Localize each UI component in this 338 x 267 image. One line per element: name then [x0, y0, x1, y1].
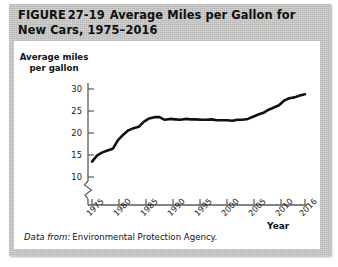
- x-axis-title: Year: [267, 221, 289, 231]
- figure-number: 27-19: [68, 8, 105, 22]
- source-note: Data from:Environmental Protection Agenc…: [24, 232, 217, 242]
- figure-container: FIGURE27-19Average Miles per Gallon for …: [0, 0, 338, 267]
- data-series-line: [92, 94, 305, 161]
- y-tick-label-20: 20: [60, 128, 82, 138]
- source-note-text: Environmental Protection Agency.: [72, 232, 217, 242]
- chart-plot-area: Average miles per gallon: [14, 41, 320, 249]
- y-axis-break-icon: [85, 181, 92, 199]
- figure-label: FIGURE: [18, 8, 66, 22]
- source-note-lead: Data from:: [24, 232, 70, 242]
- figure-title: FIGURE27-19Average Miles per Gallon for …: [18, 8, 318, 37]
- y-tick-label-15: 15: [60, 150, 82, 160]
- line-chart-svg: [14, 41, 320, 249]
- y-tick-label-10: 10: [60, 172, 82, 182]
- y-tick-marks: [88, 89, 94, 177]
- y-tick-label-30: 30: [60, 84, 82, 94]
- y-tick-label-25: 25: [60, 106, 82, 116]
- chart-card: Average miles per gallon: [14, 41, 320, 249]
